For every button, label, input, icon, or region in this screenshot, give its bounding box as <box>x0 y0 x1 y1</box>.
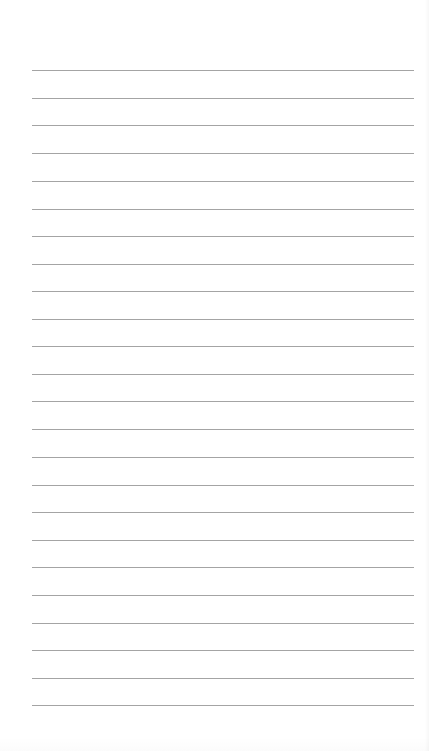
ruled-line <box>32 705 414 706</box>
ruled-line <box>32 374 414 375</box>
page-bottom-edge <box>0 737 429 751</box>
ruled-line <box>32 70 414 71</box>
ruled-line <box>32 98 414 99</box>
ruled-line <box>32 209 414 210</box>
ruled-line <box>32 346 414 347</box>
ruled-line <box>32 429 414 430</box>
lined-paper-page <box>0 0 429 751</box>
page-edge-shadow <box>425 0 429 751</box>
ruled-line <box>32 319 414 320</box>
ruled-line <box>32 512 414 513</box>
ruled-line <box>32 540 414 541</box>
ruled-line <box>32 595 414 596</box>
ruled-line <box>32 567 414 568</box>
ruled-lines <box>0 0 429 751</box>
ruled-line <box>32 264 414 265</box>
ruled-line <box>32 125 414 126</box>
ruled-line <box>32 457 414 458</box>
ruled-line <box>32 623 414 624</box>
ruled-line <box>32 485 414 486</box>
ruled-line <box>32 236 414 237</box>
ruled-line <box>32 650 414 651</box>
ruled-line <box>32 678 414 679</box>
ruled-line <box>32 401 414 402</box>
ruled-line <box>32 181 414 182</box>
ruled-line <box>32 153 414 154</box>
ruled-line <box>32 291 414 292</box>
